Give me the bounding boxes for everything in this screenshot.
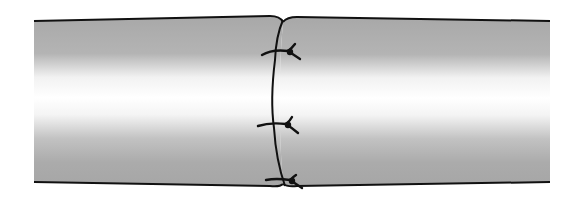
left-tube-segment (34, 16, 283, 186)
anastomosis-illustration: end-to-end anastomosis with interrupted … (0, 0, 580, 201)
right-tube-segment (280, 17, 551, 186)
